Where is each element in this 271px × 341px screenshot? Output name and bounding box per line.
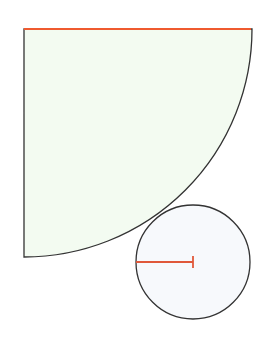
sector-circle-diagram bbox=[0, 0, 271, 341]
